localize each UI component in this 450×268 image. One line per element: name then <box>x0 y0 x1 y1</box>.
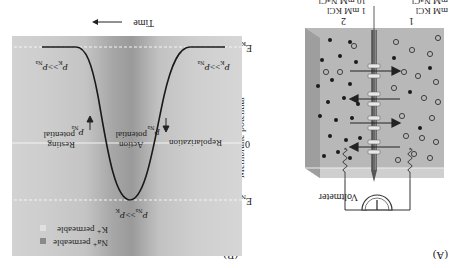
time-label: Time <box>133 18 154 29</box>
zero-label: 0 <box>245 139 250 150</box>
label-resting: Resting potential <box>44 130 76 150</box>
annot-pna-increase: PNa <box>72 125 85 137</box>
time-arrow-icon <box>90 16 124 28</box>
legend-k-permeable: K⁺ permeable <box>57 225 108 235</box>
annot-pna-gt-pk: PNa>>PK <box>116 208 149 220</box>
annot-pk-gt-pna-resting: PK>>PNa <box>36 60 69 72</box>
annot-pna-decrease: PNa <box>148 125 161 137</box>
figure-stage: (A) Voltmeter <box>0 0 450 268</box>
label-action-potential: Action potential <box>116 130 148 150</box>
annot-pk-gt-pna-repol: PK>>PNa <box>198 60 231 72</box>
membrane-pointer <box>250 0 450 268</box>
label-repolarization: Repolarization <box>169 138 222 148</box>
legend-na-permeable: Na⁺ permeable <box>53 238 108 248</box>
ek-label: EK <box>241 40 252 54</box>
